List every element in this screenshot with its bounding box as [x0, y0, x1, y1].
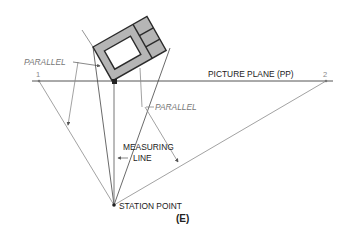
parallel-label-left: PARALLEL	[24, 57, 66, 67]
sight-line-to-vp1	[39, 81, 114, 205]
vp2-label: 2	[323, 70, 327, 79]
parallel-leader-left	[73, 62, 100, 66]
vp1-label: 1	[36, 70, 40, 79]
parallel-line-right-1	[140, 68, 142, 107]
station-point-label: STATION POINT	[119, 201, 182, 211]
measuring-line-label-2: LINE	[133, 153, 152, 163]
vp1-dot	[38, 80, 41, 83]
parallel-label-right: PARALLEL	[155, 102, 197, 112]
parallel-line-left	[68, 62, 78, 125]
measuring-line-label-1: MEASURING	[123, 142, 174, 152]
perspective-diagram: PARALLEL PARALLEL PICTURE PLANE (PP) 1 2…	[0, 0, 355, 238]
vp2-dot	[325, 80, 328, 83]
figure-label: (E)	[176, 213, 189, 224]
picture-plane-label: PICTURE PLANE (PP)	[208, 69, 294, 79]
contact-point-marker	[112, 79, 117, 84]
object-plan-view	[93, 16, 166, 80]
back-projection-left	[82, 30, 93, 47]
station-point-dot	[112, 203, 116, 207]
